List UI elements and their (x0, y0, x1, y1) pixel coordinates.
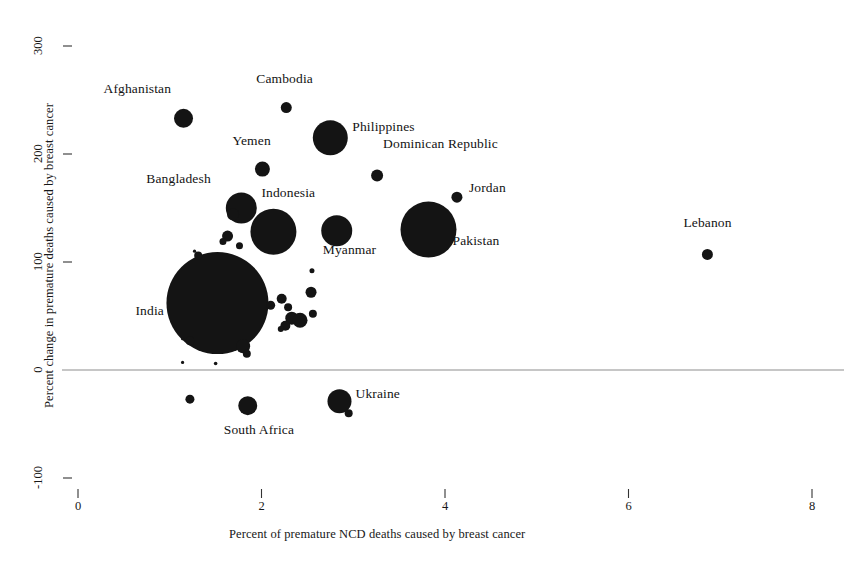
point-label-myanmar: Myanmar (323, 242, 377, 258)
bubble-dominican-republic (371, 170, 383, 182)
bubble-unlabeled (181, 361, 184, 364)
bubble-unlabeled (214, 362, 218, 366)
bubble-unlabeled (194, 252, 202, 260)
point-label-philippines: Philippines (352, 119, 414, 135)
y-tick-label: -100 (31, 458, 46, 498)
bubble-unlabeled (227, 208, 239, 220)
bubble-jordan (451, 192, 462, 203)
bubble-unlabeled (309, 268, 314, 273)
bubble-pakistan (400, 202, 456, 258)
point-label-south-africa: South Africa (224, 422, 294, 438)
point-label-afghanistan: Afghanistan (104, 81, 172, 97)
bubble-unlabeled (266, 301, 275, 310)
y-tick-label: 100 (31, 242, 46, 282)
bubble-unlabeled (185, 336, 194, 345)
bubble-unlabeled (181, 337, 184, 340)
x-tick-label: 2 (248, 499, 276, 514)
bubble-unlabeled (284, 303, 292, 311)
bubble-unlabeled (219, 238, 226, 245)
y-tick-label: 200 (31, 134, 46, 174)
point-label-jordan: Jordan (469, 180, 506, 196)
point-label-indonesia: Indonesia (261, 185, 315, 201)
bubble-cambodia (281, 102, 292, 113)
bubble-philippines (313, 120, 348, 155)
bubble-unlabeled (185, 395, 194, 404)
bubble-unlabeled (236, 242, 243, 249)
bubble-south-africa (238, 396, 257, 415)
x-tick-label: 0 (64, 499, 92, 514)
y-tick-label: 300 (31, 26, 46, 66)
bubble-unlabeled (278, 326, 284, 332)
x-tick-label: 4 (431, 499, 459, 514)
bubble-indonesia (250, 209, 296, 255)
y-tick-label: 0 (31, 350, 46, 390)
point-label-dominican-republic: Dominican Republic (383, 136, 498, 152)
point-label-ukraine: Ukraine (355, 386, 400, 402)
point-label-cambodia: Cambodia (256, 71, 313, 87)
point-label-pakistan: Pakistan (452, 233, 499, 249)
bubble-chart-figure: Percent of premature NCD deaths caused b… (0, 0, 854, 568)
figure-caption (8, 554, 846, 568)
bubble-unlabeled (193, 250, 196, 253)
bubble-unlabeled (293, 313, 308, 328)
bubble-unlabeled (277, 294, 287, 304)
bubble-unlabeled (243, 350, 251, 358)
bubble-unlabeled (306, 287, 317, 298)
bubble-yemen (255, 162, 270, 177)
bubble-unlabeled (309, 310, 317, 318)
point-label-bangladesh: Bangladesh (146, 171, 211, 187)
x-tick-label: 6 (615, 499, 643, 514)
point-label-yemen: Yemen (232, 133, 270, 149)
point-label-india: India (135, 303, 164, 319)
point-label-lebanon: Lebanon (683, 215, 731, 231)
x-axis-title: Percent of premature NCD deaths caused b… (229, 527, 525, 542)
bubble-lebanon (702, 249, 713, 260)
bubble-unlabeled (345, 409, 353, 417)
x-tick-label: 8 (798, 499, 826, 514)
bubble-afghanistan (174, 109, 193, 128)
